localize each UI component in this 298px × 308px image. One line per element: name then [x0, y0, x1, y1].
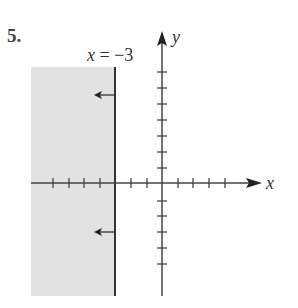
- boundary-label: x = −3: [86, 45, 133, 65]
- shaded-region: [31, 67, 115, 296]
- x-axis-label: x: [265, 173, 274, 193]
- problem-number: 5.: [7, 25, 21, 46]
- graph-figure: 5. x = −3 y x: [0, 0, 298, 308]
- y-axis-label: y: [170, 27, 180, 47]
- y-axis: [157, 31, 167, 296]
